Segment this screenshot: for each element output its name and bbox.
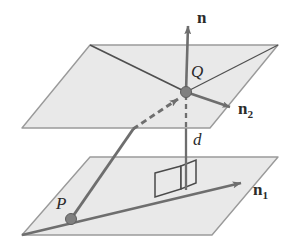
label-normal-n2-subscript: 2 bbox=[247, 108, 253, 120]
label-normal-n: n bbox=[197, 9, 206, 26]
label-distance-d: d bbox=[193, 131, 202, 148]
label-point-Q-text: Q bbox=[191, 62, 203, 81]
label-normal-n-text: n bbox=[197, 8, 206, 27]
label-normal-n1-subscript: 1 bbox=[262, 189, 268, 201]
point-P-dot bbox=[66, 214, 77, 225]
label-point-P-text: P bbox=[56, 194, 66, 213]
point-Q-dot bbox=[181, 87, 192, 98]
label-normal-n2: n2 bbox=[238, 100, 253, 121]
label-point-P: P bbox=[56, 195, 66, 212]
label-normal-n1: n1 bbox=[253, 181, 268, 202]
right-angle-marker-face-b bbox=[181, 160, 196, 189]
geometry-diagram: n Q n2 d n1 P bbox=[0, 0, 287, 248]
label-distance-d-text: d bbox=[193, 130, 202, 149]
diagram-canvas bbox=[0, 0, 287, 248]
label-point-Q: Q bbox=[191, 63, 203, 80]
